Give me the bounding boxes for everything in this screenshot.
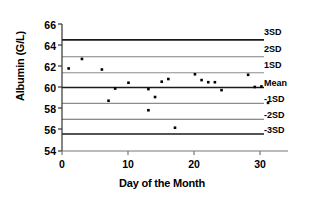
data-point xyxy=(167,78,170,81)
data-point xyxy=(67,67,70,70)
data-point xyxy=(160,80,163,83)
data-point xyxy=(267,102,270,105)
data-point xyxy=(207,81,210,84)
axis-lines xyxy=(58,24,288,155)
data-point xyxy=(81,58,84,61)
data-point xyxy=(147,109,150,112)
data-point xyxy=(107,99,110,102)
plot-canvas xyxy=(0,0,313,198)
data-point xyxy=(253,86,256,89)
control-lines xyxy=(62,40,264,134)
data-point xyxy=(194,73,197,76)
data-point xyxy=(154,96,157,99)
data-point xyxy=(127,81,130,84)
data-point xyxy=(214,81,217,84)
data-point xyxy=(147,88,150,91)
data-points xyxy=(67,58,269,129)
data-point xyxy=(174,126,177,129)
data-point xyxy=(200,79,203,82)
data-point xyxy=(220,89,223,92)
data-point xyxy=(247,74,250,77)
levey-jennings-chart: Albumin (G/L) 66 64 62 60 58 56 54 0 10 … xyxy=(0,0,313,198)
data-point xyxy=(101,68,104,71)
data-point xyxy=(114,87,117,90)
data-point xyxy=(260,85,263,88)
